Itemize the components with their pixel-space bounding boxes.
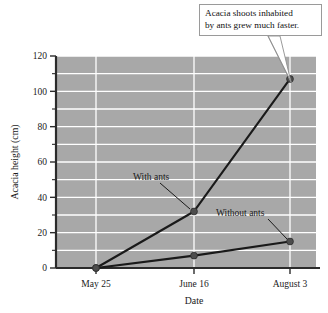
x-axis-tick-label: August 3 <box>273 279 308 289</box>
y-axis-tick-label: 40 <box>38 193 48 203</box>
callout-line-1: Acacia shoots inhabited <box>205 8 317 20</box>
callout-line-2: by ants grew much faster. <box>205 20 317 32</box>
x-axis-ticks: May 25June 16August 3 <box>81 268 307 289</box>
callout-annotation: Acacia shoots inhabited by ants grew muc… <box>199 4 322 36</box>
data-point-without-ants-0 <box>93 265 100 272</box>
y-axis-tick-label: 120 <box>33 51 48 61</box>
y-axis-tick-label: 20 <box>38 228 48 238</box>
y-axis-tick-label: 60 <box>38 157 48 167</box>
y-axis-ticks: 020406080100120 <box>33 51 56 273</box>
y-axis-tick-label: 0 <box>42 263 47 273</box>
x-axis-tick-label: May 25 <box>81 279 111 289</box>
y-axis-title: Acacia height (cm) <box>9 124 21 199</box>
y-axis-tick-label: 80 <box>38 122 48 132</box>
data-point-without-ants-2 <box>287 238 294 245</box>
without-ants-label: Without ants <box>216 208 265 218</box>
acacia-growth-chart: 020406080100120 May 25June 16August 3 Ac… <box>0 0 328 313</box>
x-axis-title: Date <box>185 295 204 306</box>
x-axis-tick-label: June 16 <box>179 279 209 289</box>
y-axis-tick-label: 100 <box>33 87 48 97</box>
data-point-without-ants-1 <box>191 252 198 259</box>
with-ants-label: With ants <box>133 172 170 182</box>
chart-svg: 020406080100120 May 25June 16August 3 Ac… <box>0 0 328 313</box>
data-point-with-ants-1 <box>191 208 198 215</box>
